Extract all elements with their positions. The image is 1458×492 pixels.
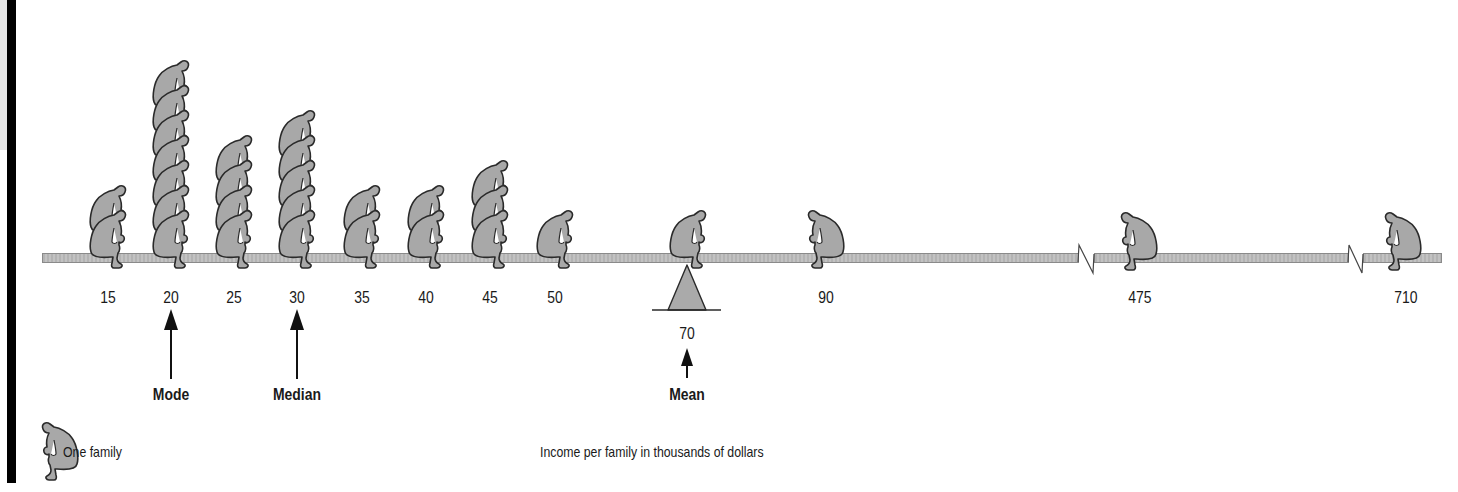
mean-arrow-icon [681,348,693,378]
mean-label: Mean [646,385,728,405]
mean-value-label: 70 [662,324,711,344]
mode-arrow-icon [164,309,178,379]
mode-label: Mode [130,385,212,405]
family-at-fulcrum [670,211,705,268]
tick-label-35: 35 [337,288,386,308]
x-axis-caption: Income per family in thousands of dollar… [540,443,764,460]
tick-label-15: 15 [83,288,132,308]
tick-label-20: 20 [146,288,195,308]
fulcrum-triangle [652,265,721,310]
median-label: Median [256,385,338,405]
tick-label-25: 25 [209,288,258,308]
tick-label-710: 710 [1381,288,1430,308]
axis-break-1 [1078,245,1094,273]
tick-label-30: 30 [272,288,321,308]
axis-break-2 [1348,245,1363,273]
stack-15 [90,186,125,268]
stack-50 [537,211,572,268]
tick-label-45: 45 [465,288,514,308]
legend-label: One family [63,443,122,460]
stack-25 [216,136,251,268]
tick-label-50: 50 [530,288,579,308]
family-475 [1122,213,1157,270]
family-710 [1386,213,1421,270]
tick-label-40: 40 [401,288,450,308]
family-90 [809,211,844,268]
stack-40 [408,186,443,268]
tick-label-90: 90 [801,288,850,308]
chart-graphics [0,0,1458,492]
median-arrow-icon [290,309,304,379]
stack-30 [279,111,314,268]
stack-20 [153,61,188,268]
stack-35 [344,186,379,268]
tick-label-475: 475 [1115,288,1164,308]
stack-45 [472,161,507,268]
